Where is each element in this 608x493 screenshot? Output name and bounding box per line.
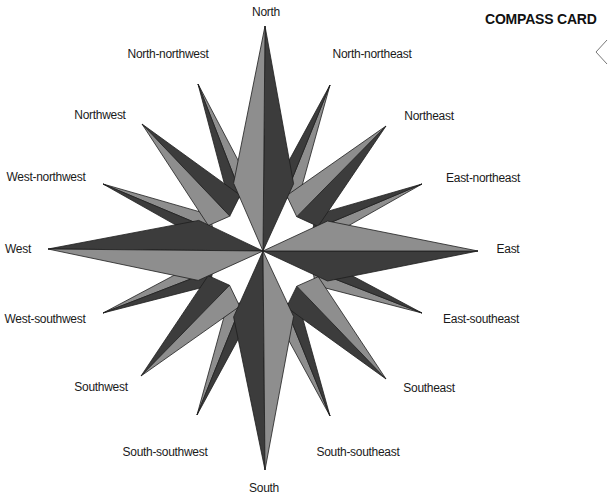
compass-point-north [234, 26, 294, 251]
label-east-northeast: East-northeast [446, 171, 520, 185]
label-east-southeast: East-southeast [443, 312, 519, 326]
label-northwest: Northwest [74, 108, 125, 122]
label-west-southwest: West-southwest [5, 312, 86, 326]
label-south-southwest: South-southwest [123, 445, 208, 459]
compass-point-south [234, 251, 294, 470]
label-north-northeast: North-northeast [333, 47, 412, 61]
cardinal-points [48, 26, 478, 470]
compass-point-west [48, 220, 263, 280]
label-west-northwest: West-northwest [7, 170, 86, 184]
label-south: South [249, 481, 279, 493]
label-northeast: Northeast [404, 109, 453, 123]
compass-point-east [263, 221, 478, 281]
label-southwest: Southwest [74, 380, 127, 394]
label-southeast: Southeast [403, 381, 454, 395]
label-south-southeast: South-southeast [317, 445, 400, 459]
label-north-northwest: North-northwest [128, 47, 209, 61]
label-north: North [252, 5, 280, 19]
label-west: West [5, 242, 31, 256]
label-east: East [497, 242, 520, 256]
